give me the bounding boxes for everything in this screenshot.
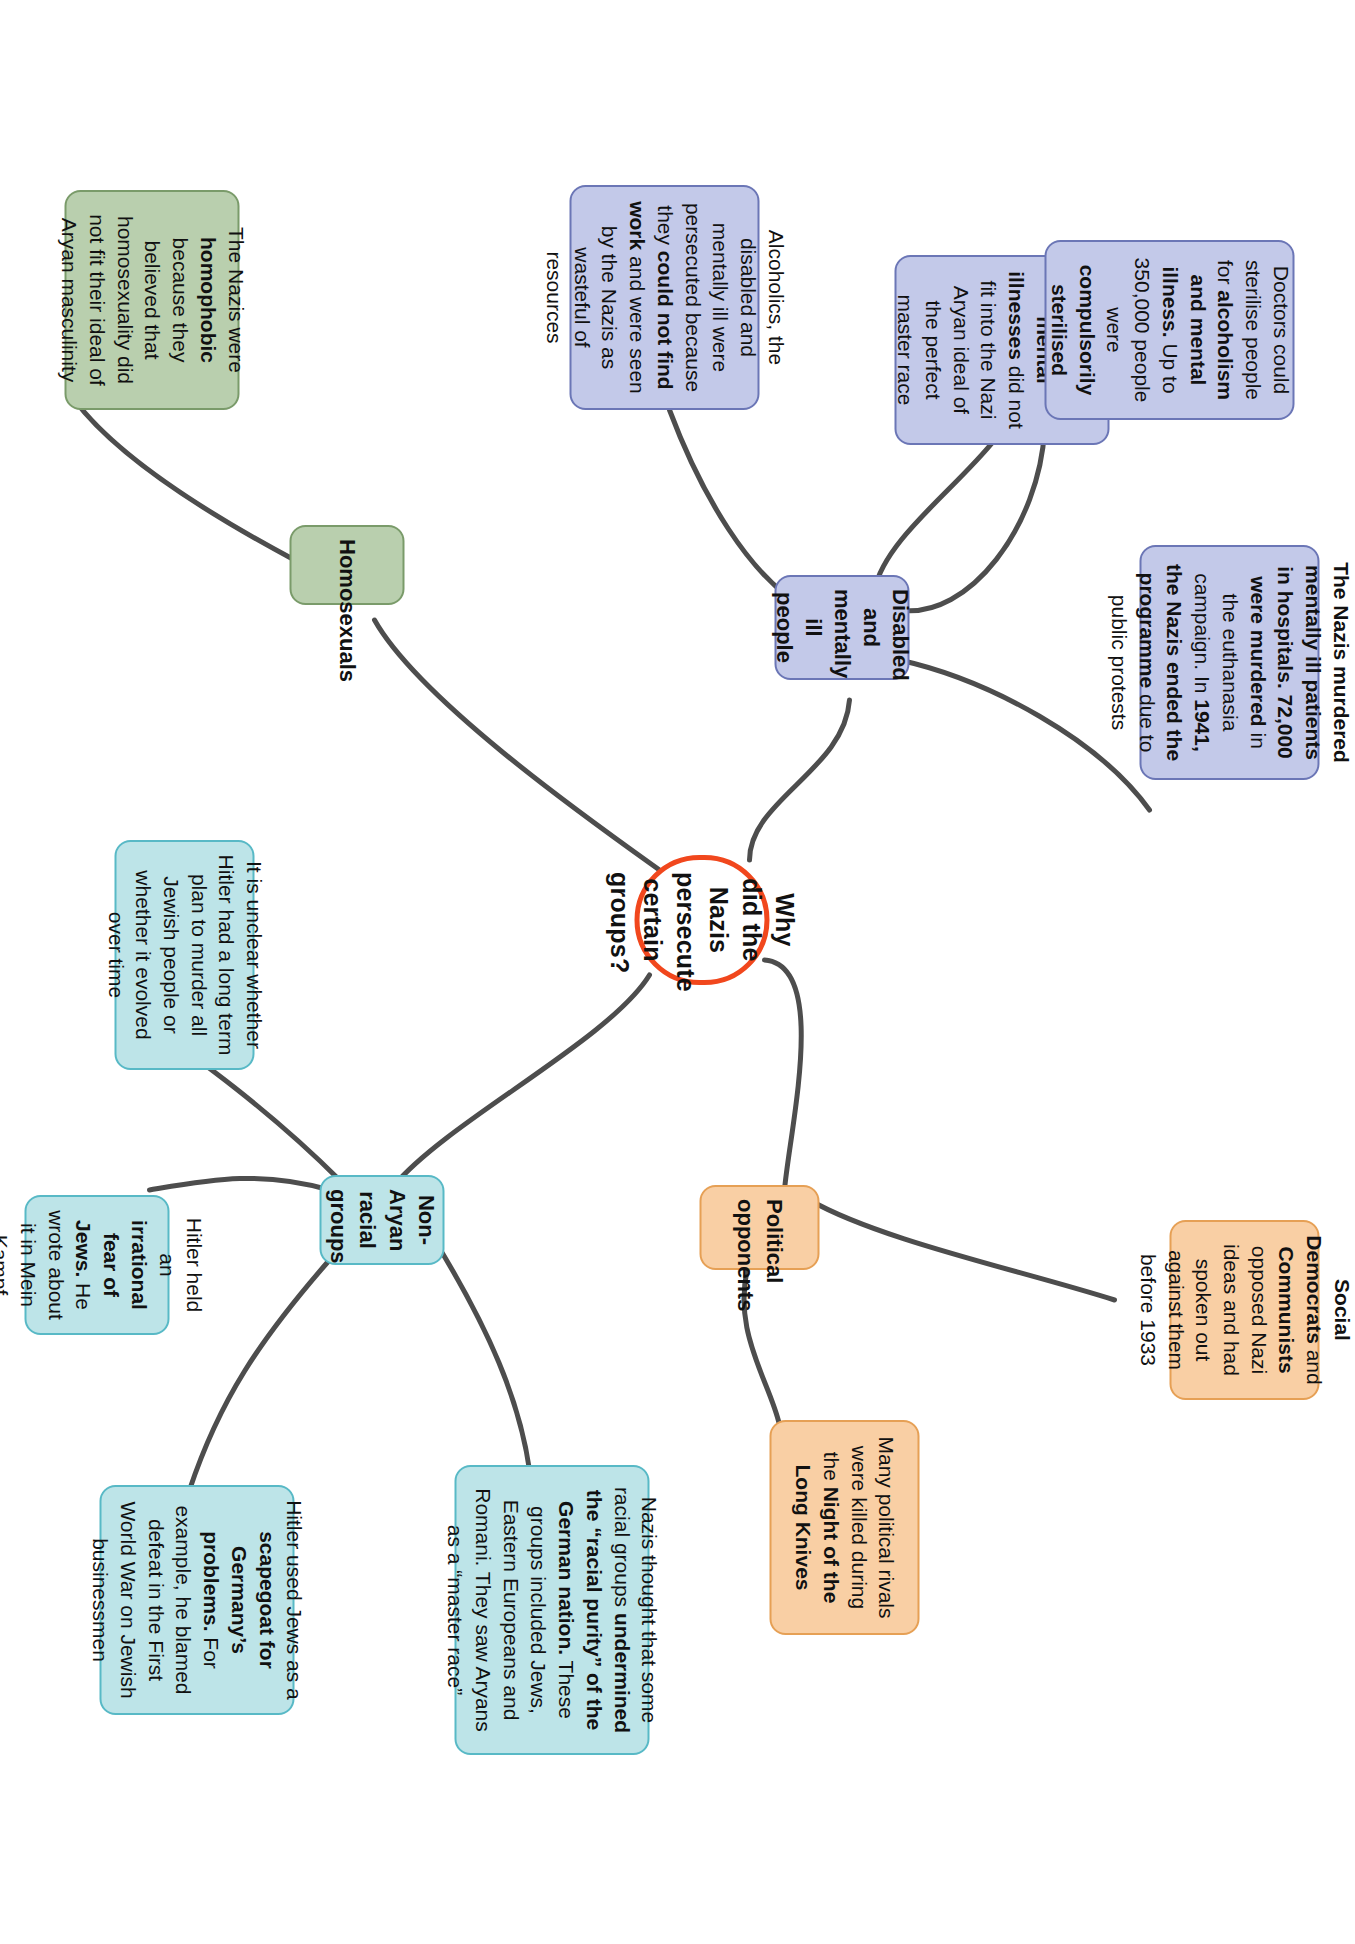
branch-label-disabled: Disabled and mentally ill people [769, 589, 914, 666]
branch-node-homosexuals[interactable]: Homosexuals [289, 525, 404, 605]
root-node[interactable]: Why did the Nazis persecute certain grou… [634, 855, 769, 985]
leaf-label-social-democrats: Social Democrats and Communists opposed … [1133, 1234, 1355, 1386]
branch-node-disabled[interactable]: Disabled and mentally ill people [774, 575, 909, 680]
link-root-nonaryan [394, 975, 649, 1185]
link-root-political [764, 960, 801, 1190]
branch-node-nonaryan[interactable]: Non-Aryan racial groups [319, 1175, 444, 1265]
branch-label-political: Political opponents [730, 1199, 788, 1256]
link-homosexuals-homophobic [74, 400, 294, 560]
leaf-label-euthanasia: The Nazis murdered mentally ill patients… [1104, 559, 1353, 766]
link-root-disabled [749, 700, 849, 860]
leaf-label-doctors-sterilise: Doctors could sterilise people for alcoh… [1044, 254, 1293, 406]
link-root-homosexuals [374, 620, 659, 870]
branch-label-homosexuals: Homosexuals [332, 539, 361, 591]
leaf-node-social-democrats[interactable]: Social Democrats and Communists opposed … [1169, 1220, 1319, 1400]
leaf-label-scapegoat: Hitler used Jews as a scapegoat for Germ… [86, 1499, 308, 1701]
leaf-node-racial-purity[interactable]: Nazis thought that some racial groups un… [454, 1465, 649, 1755]
link-political-socialdem [809, 1200, 1114, 1300]
link-nonaryan-purity [434, 1240, 529, 1470]
leaf-node-unclear-plan[interactable]: It is unclear whether Hitler had a long … [114, 840, 254, 1070]
link-nonaryan-scapegoat [189, 1260, 329, 1490]
leaf-node-long-knives[interactable]: Many political rivals were killed during… [769, 1420, 919, 1635]
leaf-label-alcoholics: Alcoholics, the disabled and mentally il… [539, 199, 788, 396]
link-disabled-people [874, 440, 994, 590]
leaf-label-racial-purity: Nazis thought that some racial groups un… [441, 1479, 663, 1741]
branch-label-nonaryan: Non-Aryan racial groups [323, 1189, 439, 1251]
root-node-label: Why did the Nazis persecute certain grou… [603, 872, 801, 968]
link-nonaryan-fear [149, 1178, 329, 1190]
leaf-node-doctors-sterilise[interactable]: Doctors could sterilise people for alcoh… [1044, 240, 1294, 420]
leaf-node-irrational-fear[interactable]: Hitler held an irrational fear of Jews. … [24, 1195, 169, 1335]
leaf-node-homophobic[interactable]: The Nazis were homophobic because they b… [64, 190, 239, 410]
leaf-node-scapegoat[interactable]: Hitler used Jews as a scapegoat for Germ… [99, 1485, 294, 1715]
leaf-label-irrational-fear: Hitler held an irrational fear of Jews. … [0, 1209, 207, 1321]
leaf-label-homophobic: The Nazis were homophobic because they b… [54, 204, 248, 396]
leaf-label-long-knives: Many political rivals were killed during… [789, 1434, 900, 1621]
leaf-node-alcoholics[interactable]: Alcoholics, the disabled and mentally il… [569, 185, 759, 410]
branch-node-political[interactable]: Political opponents [699, 1185, 819, 1270]
leaf-label-unclear-plan: It is unclear whether Hitler had a long … [101, 854, 267, 1056]
leaf-node-euthanasia[interactable]: The Nazis murdered mentally ill patients… [1139, 545, 1319, 780]
